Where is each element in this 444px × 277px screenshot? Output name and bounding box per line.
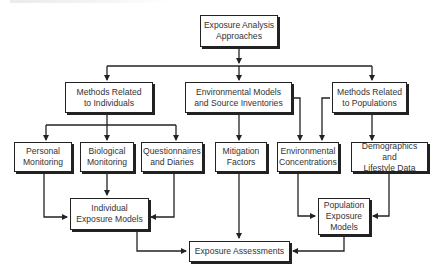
- node-environmental-concentrations: Environmental Concentrations: [277, 142, 339, 172]
- node-label-line: Monitoring: [87, 157, 127, 168]
- node-biological-monitoring: Biological Monitoring: [80, 142, 134, 172]
- node-label-line: and Source Inventories: [194, 98, 282, 109]
- node-personal-monitoring: Personal Monitoring: [14, 142, 72, 172]
- node-label-line: to Populations: [337, 98, 402, 109]
- node-exposure-analysis-approaches: Exposure Analysis Approaches: [200, 15, 278, 47]
- node-label-line: Demographics and: [354, 141, 425, 163]
- node-label-line: Exposure Assessments: [195, 246, 284, 257]
- node-exposure-assessments: Exposure Assessments: [189, 241, 290, 262]
- node-label-line: Population: [324, 200, 365, 211]
- node-label-line: to Individuals: [77, 98, 142, 109]
- node-label-line: Environmental Models: [194, 87, 282, 98]
- node-label-line: and Diaries: [143, 157, 201, 168]
- node-label-line: Concentrations: [279, 157, 337, 168]
- node-label-line: Lifestyle Data: [354, 163, 425, 174]
- node-label-line: Mitigation: [223, 146, 260, 157]
- node-label-line: Approaches: [204, 31, 274, 42]
- node-individual-exposure-models: Individual Exposure Models: [70, 198, 149, 230]
- node-environmental-models-source-inventories: Environmental Models and Source Inventor…: [185, 82, 292, 113]
- node-label-line: Environmental: [279, 146, 337, 157]
- node-label-line: Exposure Analysis: [204, 20, 274, 31]
- node-label-line: Exposure Models: [76, 214, 142, 225]
- node-label-line: Individual: [76, 203, 142, 214]
- node-methods-related-to-individuals: Methods Related to Individuals: [65, 82, 153, 113]
- node-label-line: Exposure: [324, 211, 365, 222]
- node-label-line: Questionnaires: [143, 146, 201, 157]
- node-population-exposure-models: Population Exposure Models: [318, 198, 370, 235]
- node-demographics-lifestyle-data: Demographics and Lifestyle Data: [351, 142, 428, 172]
- node-questionnaires-and-diaries: Questionnaires and Diaries: [141, 142, 203, 172]
- node-label-line: Factors: [223, 157, 260, 168]
- node-mitigation-factors: Mitigation Factors: [215, 142, 267, 172]
- node-label-line: Monitoring: [23, 157, 63, 168]
- node-label-line: Models: [324, 222, 365, 233]
- exposure-analysis-flowchart: Exposure Analysis Approaches Methods Rel…: [0, 0, 444, 277]
- node-label-line: Biological: [87, 146, 127, 157]
- node-label-line: Methods Related: [77, 87, 142, 98]
- node-label-line: Personal: [23, 146, 63, 157]
- node-methods-related-to-populations: Methods Related to Populations: [332, 82, 407, 113]
- node-label-line: Methods Related: [337, 87, 402, 98]
